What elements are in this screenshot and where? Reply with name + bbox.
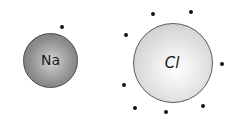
valence-electron-dot bbox=[124, 33, 128, 37]
atom-sodium[interactable]: Na bbox=[23, 33, 78, 88]
valence-electron-dot bbox=[201, 104, 205, 108]
valence-electron-dot bbox=[189, 10, 193, 14]
valence-electron-dot bbox=[122, 83, 126, 87]
valence-electron-dot bbox=[60, 25, 64, 29]
atom-chlorine[interactable]: Cl bbox=[133, 23, 213, 103]
valence-electron-dot bbox=[133, 106, 137, 110]
valence-electron-dot bbox=[220, 62, 224, 66]
valence-electron-dot bbox=[164, 110, 168, 114]
valence-electron-dot bbox=[151, 12, 155, 16]
atom-sodium-label: Na bbox=[41, 53, 60, 67]
atom-chlorine-label: Cl bbox=[165, 56, 180, 71]
diagram-canvas: Na Cl bbox=[0, 0, 241, 127]
